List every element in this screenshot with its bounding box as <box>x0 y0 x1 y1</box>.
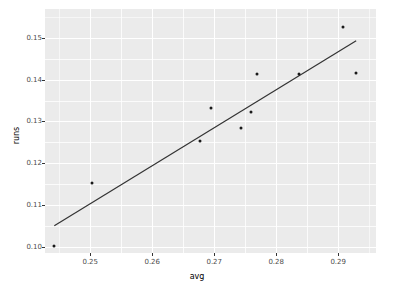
gridline-vertical-minor <box>245 9 246 253</box>
y-tick-mark <box>42 163 45 164</box>
data-point <box>91 182 94 185</box>
gridline-vertical-major <box>214 9 215 253</box>
y-tick-mark <box>42 247 45 248</box>
x-tick-mark <box>152 253 153 256</box>
y-tick-label: 0.12 <box>20 159 42 167</box>
gridline-horizontal-minor <box>45 59 376 60</box>
x-tick-mark <box>338 253 339 256</box>
x-tick-label: 0.28 <box>268 258 284 266</box>
gridline-horizontal-major <box>45 163 376 164</box>
x-axis-label: avg <box>0 272 394 281</box>
trendline <box>45 9 376 253</box>
gridline-vertical-minor <box>183 9 184 253</box>
gridline-horizontal-minor <box>45 142 376 143</box>
plot-panel <box>45 9 376 253</box>
gridline-horizontal-major <box>45 247 376 248</box>
data-point <box>240 126 243 129</box>
data-point <box>342 25 345 28</box>
gridline-horizontal-major <box>45 205 376 206</box>
y-tick-label: 0.13 <box>20 117 42 125</box>
y-tick-mark <box>42 38 45 39</box>
gridline-vertical-minor <box>121 9 122 253</box>
gridline-horizontal-minor <box>45 268 376 269</box>
y-tick-label: 0.15 <box>20 34 42 42</box>
y-tick-label: 0.10 <box>20 243 42 251</box>
x-tick-mark <box>276 253 277 256</box>
data-point <box>250 110 253 113</box>
y-tick-mark <box>42 121 45 122</box>
gridline-vertical-major <box>90 9 91 253</box>
trendline-segment <box>54 41 356 226</box>
gridline-horizontal-major <box>45 80 376 81</box>
gridline-vertical-minor <box>59 9 60 253</box>
data-point <box>198 140 201 143</box>
gridline-vertical-minor <box>369 9 370 253</box>
y-axis-label: runs <box>12 127 21 145</box>
data-point <box>355 71 358 74</box>
y-tick-mark <box>42 205 45 206</box>
data-point <box>298 72 301 75</box>
y-tick-label: 0.11 <box>20 201 42 209</box>
x-tick-label: 0.27 <box>206 258 222 266</box>
x-tick-label: 0.25 <box>82 258 98 266</box>
data-point <box>209 107 212 110</box>
x-tick-label: 0.29 <box>330 258 346 266</box>
gridline-horizontal-major <box>45 121 376 122</box>
gridline-vertical-minor <box>307 9 308 253</box>
data-point <box>255 72 258 75</box>
x-tick-mark <box>90 253 91 256</box>
x-tick-mark <box>214 253 215 256</box>
x-tick-label: 0.26 <box>144 258 160 266</box>
gridline-horizontal-minor <box>45 226 376 227</box>
gridline-vertical-major <box>338 9 339 253</box>
scatter-plot-figure: 0.250.260.270.280.290.100.110.120.130.14… <box>0 0 394 291</box>
gridline-horizontal-minor <box>45 184 376 185</box>
gridline-horizontal-major <box>45 38 376 39</box>
y-tick-label: 0.14 <box>20 76 42 84</box>
gridline-vertical-major <box>276 9 277 253</box>
gridline-horizontal-minor <box>45 17 376 18</box>
data-point <box>53 245 56 248</box>
gridline-vertical-major <box>152 9 153 253</box>
gridline-horizontal-minor <box>45 101 376 102</box>
y-tick-mark <box>42 80 45 81</box>
